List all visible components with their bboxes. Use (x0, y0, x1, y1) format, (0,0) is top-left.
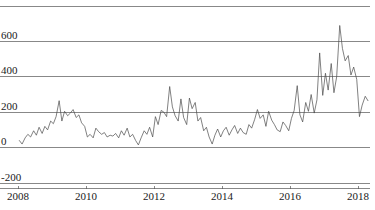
x-tick-label-2010: 2010 (75, 190, 98, 202)
y-tick-label-200: 200 (1, 100, 18, 112)
x-tick-label-2018: 2018 (347, 190, 370, 202)
line-chart: -2000200400600 200820102012201420162018 (0, 0, 375, 210)
series-line-series-1 (19, 25, 368, 144)
y-tick-label-400: 400 (1, 64, 18, 76)
y-tick-label--200: -200 (1, 171, 22, 183)
x-tick-label-2016: 2016 (279, 190, 302, 202)
x-tick-labels-group: 200820102012201420162018 (7, 190, 370, 202)
gridlines-group (0, 6, 370, 183)
x-tick-label-2008: 2008 (7, 190, 30, 202)
chart-figure: -2000200400600 200820102012201420162018 (0, 0, 375, 210)
y-tick-label-0: 0 (1, 135, 7, 147)
y-tick-label-600: 600 (1, 29, 18, 41)
x-tickmarks-group (18, 186, 358, 189)
y-tick-labels-group: -2000200400600 (1, 29, 22, 183)
x-tick-label-2012: 2012 (143, 190, 165, 202)
x-tick-label-2014: 2014 (211, 190, 234, 202)
data-series-group (19, 25, 368, 144)
